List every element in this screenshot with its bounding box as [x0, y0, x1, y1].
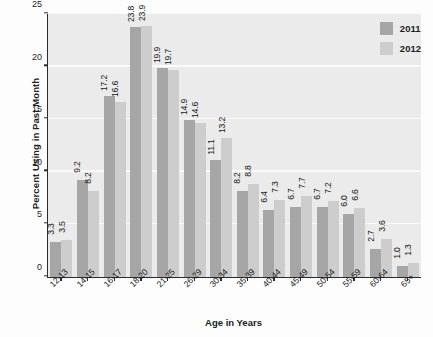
bar-2011-21-25: 19.9 [157, 68, 168, 277]
bar-value-label: 8.8 [243, 166, 253, 177]
bar-group: 9.28.2 [75, 14, 102, 277]
bar-group: 11.113.2 [208, 14, 235, 277]
bar-value-label: 2.7 [366, 230, 376, 241]
bar-value-label: 7.3 [270, 182, 280, 193]
bar-value-label: 6.4 [259, 191, 269, 202]
bar-groups: 3.33.59.28.217.216.623.823.919.919.714.9… [48, 14, 421, 277]
bar-value-label: 7.2 [323, 183, 333, 194]
bar-2011-45-49: 6.7 [290, 207, 301, 277]
bar-2012-21-25: 19.7 [168, 70, 179, 277]
x-axis-ticks: 12-1314-1516-1718-2021-2526-2930-3435-39… [47, 279, 420, 319]
x-tick-45-49: 45-49 [287, 279, 314, 319]
bar-value-label: 8.2 [232, 172, 242, 183]
x-tick-35-39: 35-39 [233, 279, 260, 319]
bar-2011-26-29: 14.9 [184, 120, 195, 277]
bar-2012-45-49: 7.7 [301, 196, 312, 277]
x-tick-14-15: 14-15 [74, 279, 101, 319]
x-tick-40-44: 40-44 [260, 279, 287, 319]
legend-label: 2011 [400, 23, 421, 34]
bar-group: 3.33.5 [48, 14, 75, 277]
bar-value-label: 3.6 [377, 220, 387, 231]
bar-value-label: 14.9 [179, 99, 189, 115]
y-tick-label: 25 [32, 0, 42, 9]
bar-group: 19.919.7 [155, 14, 182, 277]
legend-label: 2012 [400, 43, 421, 54]
x-tick-60-64: 60-64 [367, 279, 394, 319]
bar-2011-30-34: 11.1 [210, 160, 221, 277]
bar-value-label: 23.9 [137, 5, 147, 21]
bar-value-label: 19.9 [152, 47, 162, 63]
bar-2012-35-39: 8.8 [248, 184, 259, 277]
bar-value-label: 9.2 [72, 162, 82, 173]
bar-2012-40-44: 7.3 [274, 200, 285, 277]
x-tick-16-17: 16-17 [100, 279, 127, 319]
bar-group: 6.47.3 [261, 14, 288, 277]
bar-value-label: 14.6 [190, 102, 200, 118]
bar-value-label: 16.6 [110, 81, 120, 97]
bar-2012-16-17: 16.6 [115, 102, 126, 277]
bar-2012-26-29: 14.6 [195, 123, 206, 277]
chart-figure: Substance Use Disorder molina Marijuana … [0, 0, 433, 337]
x-tick-55-59: 55-59 [340, 279, 367, 319]
bar-2011-14-15: 9.2 [77, 180, 88, 277]
bar-2011-35-39: 8.2 [237, 191, 248, 277]
x-tick-18-20: 18-20 [127, 279, 154, 319]
y-axis-title: Percent Using in Past Month [30, 34, 41, 254]
bar-value-label: 3.5 [57, 222, 67, 233]
bar-group: 6.77.7 [288, 14, 315, 277]
bar-value-label: 6.6 [350, 189, 360, 200]
bar-2011-50-54: 6.7 [317, 207, 328, 277]
legend-swatch-icon [380, 42, 393, 55]
x-tick-65+: 65+ [393, 279, 420, 319]
bar-group: 6.77.2 [314, 14, 341, 277]
bar-value-label: 6.7 [286, 188, 296, 199]
bar-group: 17.216.6 [101, 14, 128, 277]
bar-value-label: 8.2 [83, 172, 93, 183]
y-tick-label: 5 [37, 209, 42, 219]
bar-value-label: 17.2 [99, 75, 109, 91]
x-axis-title: Age in Years [47, 317, 420, 328]
bar-value-label: 1.3 [403, 245, 413, 256]
bar-2011-40-44: 6.4 [263, 210, 274, 277]
x-tick-21-25: 21-25 [154, 279, 181, 319]
x-tick-26-29: 26-29 [180, 279, 207, 319]
bar-value-label: 7.7 [297, 177, 307, 188]
bar-2012-14-15: 8.2 [88, 191, 99, 277]
bar-2012-18-20: 23.9 [141, 26, 152, 277]
bar-value-label: 6.0 [339, 195, 349, 206]
x-tick-12-13: 12-13 [47, 279, 74, 319]
bar-value-label: 3.3 [46, 224, 56, 235]
bar-value-label: 23.8 [126, 6, 136, 22]
chart-legend: 20112012 [380, 22, 421, 55]
x-tick-30-34: 30-34 [207, 279, 234, 319]
bar-value-label: 13.2 [217, 117, 227, 133]
legend-swatch-icon [380, 22, 393, 35]
bar-value-label: 1.0 [392, 248, 402, 259]
y-tick-label: 0 [37, 262, 42, 272]
bar-group: 6.06.6 [341, 14, 368, 277]
bar-2011-16-17: 17.2 [104, 96, 115, 277]
bar-2012-30-34: 13.2 [221, 138, 232, 277]
bar-group: 8.28.8 [234, 14, 261, 277]
y-tick-label: 15 [32, 104, 42, 114]
y-tick-label: 20 [32, 52, 42, 62]
bar-value-label: 11.1 [206, 140, 216, 155]
x-tick-50-54: 50-54 [313, 279, 340, 319]
legend-item-2012[interactable]: 2012 [380, 42, 421, 55]
bar-2011-55-59: 6.0 [343, 214, 354, 277]
legend-item-2011[interactable]: 2011 [380, 22, 421, 35]
y-tick-label: 10 [32, 157, 42, 167]
bar-value-label: 19.7 [163, 49, 173, 65]
plot-area: 0510152025 3.33.59.28.217.216.623.823.91… [47, 14, 421, 278]
bar-value-label: 6.7 [312, 188, 322, 199]
bar-group: 23.823.9 [128, 14, 155, 277]
bar-group: 14.914.6 [181, 14, 208, 277]
bar-2011-18-20: 23.8 [130, 27, 141, 277]
